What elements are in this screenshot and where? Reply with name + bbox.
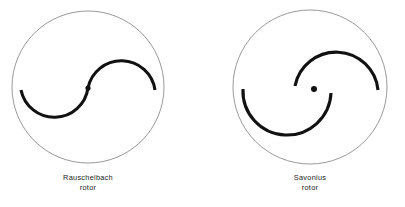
rotor-figure-canvas: Rauschelbach rotor Savonius rotor [0, 0, 405, 207]
savonius-upper-blade [295, 52, 378, 90]
rauschelbach-hub-dot [85, 85, 90, 90]
rauschelbach-caption-line1: Rauschelbach [63, 173, 113, 182]
panel-savonius: Savonius rotor [233, 10, 387, 192]
savonius-caption-line1: Savonius [294, 173, 326, 182]
rauschelbach-lower-left-blade [21, 88, 88, 117]
rotor-figure: Rauschelbach rotor Savonius rotor [0, 0, 405, 207]
rauschelbach-upper-right-blade [88, 61, 155, 90]
savonius-caption-line2: rotor [302, 183, 319, 192]
rauschelbach-caption-line2: rotor [80, 183, 97, 192]
savonius-hub-dot [311, 86, 317, 92]
panel-rauschelbach: Rauschelbach rotor [12, 11, 164, 192]
savonius-lower-blade [243, 89, 331, 135]
savonius-swept-circle [233, 10, 387, 164]
